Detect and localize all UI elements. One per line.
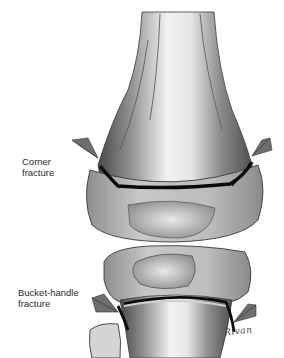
fibula-head	[89, 324, 120, 358]
bucket-handle-label-line1: Bucket-handle	[18, 287, 79, 298]
femur-shaft	[98, 12, 252, 183]
corner-fracture-label: Corner fracture	[22, 156, 54, 178]
corner-fracture-label-line1: Corner	[22, 156, 54, 167]
bucket-handle-label-line2: fracture	[18, 298, 79, 309]
bucket-handle-fracture-label: Bucket-handle fracture	[18, 287, 79, 309]
corner-fracture-label-line2: fracture	[22, 167, 54, 178]
